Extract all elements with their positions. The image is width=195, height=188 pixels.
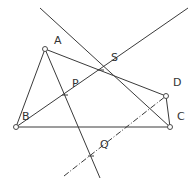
- label-Q: Q: [100, 138, 109, 151]
- label-S: S: [111, 51, 118, 64]
- segment-AB: [16, 49, 45, 127]
- vertex-B: [14, 125, 19, 130]
- line-diagonal-to-C: [40, 8, 170, 127]
- label-B: B: [22, 110, 30, 123]
- geometry-diagram: A B C D P S Q: [0, 0, 195, 188]
- label-A: A: [54, 34, 62, 47]
- vertex-D: [164, 94, 169, 99]
- line-B-P-S: [16, 8, 188, 127]
- vertex-A: [43, 47, 48, 52]
- vertex-C: [168, 125, 173, 130]
- line-Q-D-dashed: [64, 96, 166, 176]
- label-D: D: [173, 76, 181, 89]
- label-C: C: [177, 110, 185, 123]
- segment-DC: [166, 96, 170, 127]
- label-P: P: [72, 77, 79, 90]
- segment-AD: [45, 49, 166, 96]
- tick-marks: [62, 70, 104, 156]
- line-A-P-Q: [45, 49, 100, 178]
